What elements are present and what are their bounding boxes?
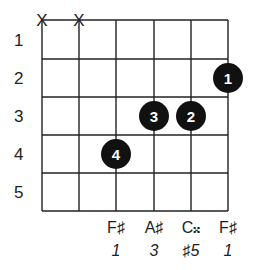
fret-number-label: 1 bbox=[14, 31, 23, 50]
note-name: A♯ bbox=[145, 219, 164, 236]
note-name: F♯ bbox=[219, 219, 237, 236]
fret-number-label: 2 bbox=[14, 69, 23, 88]
interval-label: 1 bbox=[112, 242, 121, 259]
interval-label: 3 bbox=[150, 242, 159, 259]
fret-number-label: 4 bbox=[14, 145, 23, 164]
finger-number: 1 bbox=[224, 70, 232, 87]
chord-diagram: 12345XX1234F♯1A♯3C𝄪♯5F♯1 bbox=[0, 0, 255, 270]
note-name: C𝄪 bbox=[182, 219, 201, 236]
finger-number: 4 bbox=[112, 146, 121, 163]
finger-number: 3 bbox=[150, 108, 158, 125]
finger-number: 2 bbox=[187, 108, 195, 125]
fret-number-label: 5 bbox=[14, 183, 23, 202]
note-name: F♯ bbox=[107, 219, 125, 236]
muted-string-marker: X bbox=[73, 11, 84, 30]
interval-label: ♯5 bbox=[183, 242, 200, 259]
interval-label: 1 bbox=[224, 242, 233, 259]
fret-number-label: 3 bbox=[14, 107, 23, 126]
muted-string-marker: X bbox=[36, 11, 47, 30]
